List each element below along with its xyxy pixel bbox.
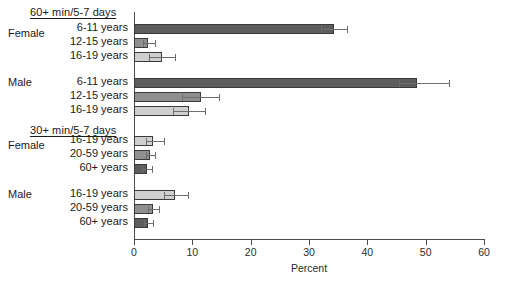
error-bar-line — [146, 141, 164, 142]
error-bar-cap — [146, 152, 147, 159]
age-group-label: 20-59 years — [52, 147, 128, 159]
error-bar-line — [146, 155, 155, 156]
error-bar-line — [143, 43, 155, 44]
error-bar-cap — [399, 80, 400, 87]
age-group-label: 12-15 years — [52, 35, 128, 47]
error-bar-cap — [142, 166, 143, 173]
sex-group-label: Female — [8, 27, 45, 39]
x-tick-label: 40 — [361, 246, 373, 258]
age-group-label: 16-19 years — [52, 133, 128, 145]
x-tick-label: 10 — [186, 246, 198, 258]
x-tick-mark — [426, 240, 427, 245]
error-bar-cap — [173, 108, 174, 115]
bar — [134, 24, 334, 34]
x-tick-mark — [251, 240, 252, 245]
physical-activity-bar-chart: Percent 60+ min/5-7 daysFemale6-11 years… — [0, 0, 508, 283]
error-bar-cap — [321, 26, 322, 33]
error-bar-line — [149, 57, 175, 58]
error-bar-line — [399, 83, 449, 84]
error-bar-cap — [205, 108, 206, 115]
error-bar-cap — [347, 26, 348, 33]
error-bar-cap — [159, 206, 160, 213]
group-header-label: 60+ min/5-7 days — [30, 6, 116, 18]
error-bar-line — [321, 29, 347, 30]
age-group-label: 16-19 years — [52, 103, 128, 115]
x-tick-label: 30 — [303, 246, 315, 258]
error-bar-line — [142, 169, 152, 170]
error-bar-cap — [155, 152, 156, 159]
sex-group-label: Female — [8, 139, 45, 151]
error-bar-cap — [146, 138, 147, 145]
error-bar-line — [144, 223, 153, 224]
error-bar-line — [164, 195, 188, 196]
error-bar-cap — [182, 94, 183, 101]
error-bar-cap — [155, 40, 156, 47]
x-tick-label: 20 — [245, 246, 257, 258]
x-axis-title: Percent — [134, 262, 484, 274]
error-bar-cap — [148, 206, 149, 213]
error-bar-cap — [188, 192, 189, 199]
error-bar-cap — [144, 220, 145, 227]
age-group-label: 16-19 years — [52, 49, 128, 61]
x-tick-label: 60 — [478, 246, 490, 258]
x-tick-label: 50 — [420, 246, 432, 258]
x-tick-mark — [192, 240, 193, 245]
error-bar-cap — [175, 54, 176, 61]
age-group-label: 16-19 years — [52, 187, 128, 199]
age-group-label: 12-15 years — [52, 89, 128, 101]
error-bar-cap — [219, 94, 220, 101]
error-bar-cap — [149, 54, 150, 61]
age-group-label: 6-11 years — [52, 75, 128, 87]
error-bar-line — [148, 209, 159, 210]
error-bar-cap — [143, 40, 144, 47]
error-bar-cap — [152, 166, 153, 173]
age-group-label: 60+ years — [52, 215, 128, 227]
error-bar-line — [173, 111, 205, 112]
age-group-label: 60+ years — [52, 161, 128, 173]
error-bar-cap — [164, 138, 165, 145]
x-tick-mark — [484, 240, 485, 245]
x-tick-mark — [367, 240, 368, 245]
error-bar-cap — [449, 80, 450, 87]
sex-group-label: Male — [8, 188, 32, 200]
age-group-label: 20-59 years — [52, 201, 128, 213]
bar — [134, 78, 417, 88]
error-bar-cap — [164, 192, 165, 199]
x-tick-mark — [309, 240, 310, 245]
x-tick-mark — [134, 240, 135, 245]
age-group-label: 6-11 years — [52, 21, 128, 33]
x-tick-label: 0 — [131, 246, 137, 258]
sex-group-label: Male — [8, 76, 32, 88]
error-bar-line — [182, 97, 219, 98]
error-bar-cap — [153, 220, 154, 227]
